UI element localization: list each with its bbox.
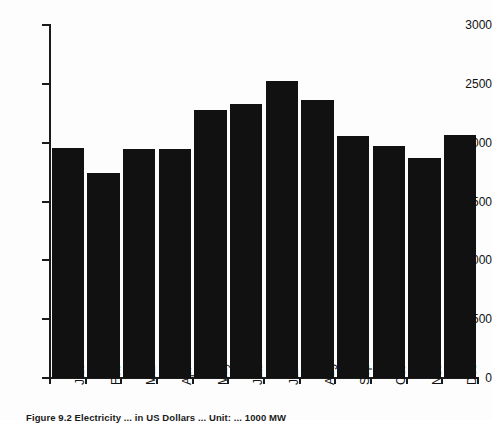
bar bbox=[266, 81, 298, 378]
x-tick-label: Nov bbox=[431, 364, 443, 385]
y-tick-label: 3000 bbox=[452, 19, 492, 31]
y-tick bbox=[42, 142, 50, 144]
x-tick-label: Jul bbox=[288, 370, 300, 385]
bar bbox=[301, 100, 333, 378]
y-tick bbox=[42, 24, 50, 26]
bar bbox=[373, 146, 405, 378]
y-tick bbox=[42, 201, 50, 203]
x-tick-label: May bbox=[217, 362, 229, 385]
bar bbox=[159, 149, 191, 378]
x-tick-label: Apr bbox=[181, 366, 193, 385]
bar bbox=[408, 158, 440, 378]
figure-caption: Figure 9.2 Electricity ... in US Dollars… bbox=[26, 412, 466, 423]
x-tick-label: Sep bbox=[359, 364, 371, 385]
y-tick-label: 2500 bbox=[452, 78, 492, 90]
y-tick bbox=[42, 259, 50, 261]
x-tick-label: Mar bbox=[145, 364, 157, 385]
bar bbox=[337, 136, 369, 378]
x-tick-label: Dec bbox=[466, 364, 478, 385]
x-tick-label: Oct bbox=[395, 366, 407, 385]
bar bbox=[123, 149, 155, 378]
bar bbox=[444, 135, 476, 378]
bar bbox=[230, 104, 262, 378]
y-tick bbox=[42, 318, 50, 320]
x-tick-label: Jan bbox=[74, 366, 86, 385]
y-tick bbox=[42, 83, 50, 85]
bar bbox=[87, 173, 119, 378]
x-tick-label: Jun bbox=[252, 366, 264, 385]
x-tick-label: Aug bbox=[324, 364, 336, 385]
x-tick-label: Feb bbox=[110, 364, 122, 385]
x-tick bbox=[49, 378, 51, 384]
bar bbox=[194, 110, 226, 378]
bar bbox=[52, 148, 84, 378]
